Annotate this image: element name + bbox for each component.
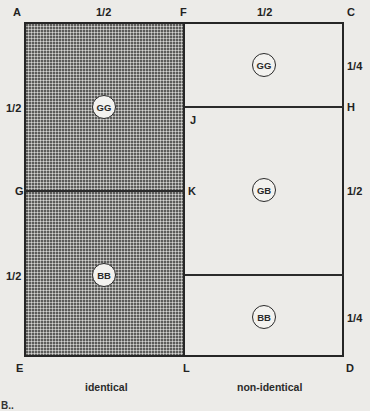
point-label-d: D [346, 362, 354, 374]
point-label-k: K [188, 185, 196, 197]
circle-label: GG [97, 102, 112, 113]
line-j-h [185, 106, 344, 108]
caption-non-identical: non-identical [237, 381, 302, 393]
point-label-c: C [347, 6, 355, 18]
line-g-k [24, 190, 185, 192]
circle-label: BB [97, 270, 111, 281]
fraction-right-top: 1/4 [347, 60, 362, 72]
circle-label: GB [257, 185, 271, 196]
circle-label: BB [257, 312, 271, 323]
circle-nonidentical-gg: GG [252, 53, 276, 77]
fraction-top-left: 1/2 [96, 6, 111, 18]
point-label-f: F [180, 6, 187, 18]
circle-nonidentical-bb: BB [252, 305, 276, 329]
fraction-right-bottom: 1/4 [347, 312, 362, 324]
line-lower-divider [185, 274, 344, 276]
circle-identical-bb: BB [92, 263, 116, 287]
fraction-right-middle: 1/2 [347, 185, 362, 197]
caption-identical: identical [85, 381, 128, 393]
fraction-top-right: 1/2 [257, 6, 272, 18]
point-label-j: J [190, 114, 196, 126]
point-label-g: G [15, 185, 24, 197]
point-label-e: E [16, 362, 23, 374]
circle-identical-gg: GG [92, 95, 116, 119]
fraction-left-upper: 1/2 [6, 102, 21, 114]
fraction-left-lower: 1/2 [6, 270, 21, 282]
cropped-label: B.. [1, 400, 14, 411]
point-label-l: L [183, 362, 190, 374]
point-label-a: A [13, 6, 21, 18]
circle-label: GG [257, 60, 272, 71]
point-label-h: H [347, 101, 355, 113]
circle-nonidentical-gb: GB [252, 178, 276, 202]
